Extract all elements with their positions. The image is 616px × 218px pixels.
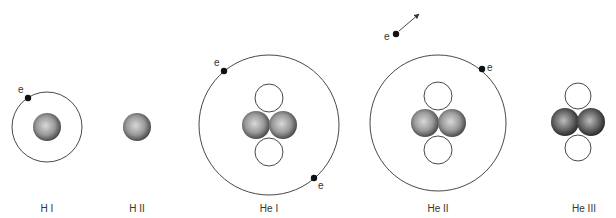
proton xyxy=(123,113,151,141)
electron-label: e xyxy=(318,180,324,191)
atom-h1: e H I xyxy=(12,84,82,214)
atom-label: He III xyxy=(572,203,596,214)
electron xyxy=(479,66,485,72)
proton xyxy=(33,113,61,141)
atom-h2: H II xyxy=(123,113,151,214)
diagram-canvas: e H I H II e e He I xyxy=(0,0,616,218)
atom-he1: e e He I xyxy=(199,55,339,214)
escape-arrow-icon xyxy=(399,14,419,31)
proton xyxy=(438,109,466,137)
free-electron xyxy=(393,31,399,37)
proton xyxy=(411,109,439,137)
electron xyxy=(221,68,227,74)
proton xyxy=(269,111,297,139)
neutron xyxy=(255,84,283,112)
atom-label: H II xyxy=(129,203,145,214)
atom-he2: e e He II xyxy=(370,14,506,214)
electron xyxy=(311,175,317,181)
electron-label: e xyxy=(384,31,390,42)
electron-label: e xyxy=(487,62,493,73)
neutron xyxy=(424,82,452,110)
electron xyxy=(25,95,31,101)
atom-label: H I xyxy=(41,203,54,214)
electron-label: e xyxy=(214,57,220,68)
neutron xyxy=(565,135,591,161)
proton xyxy=(242,111,270,139)
ionization-diagram: e H I H II e e He I xyxy=(0,0,616,218)
atom-label: He II xyxy=(427,203,448,214)
neutron xyxy=(424,136,452,164)
atom-label: He I xyxy=(260,203,278,214)
neutron xyxy=(255,138,283,166)
proton xyxy=(577,108,605,136)
electron-label: e xyxy=(18,84,24,95)
atom-he3: He III xyxy=(551,83,605,214)
neutron xyxy=(565,83,591,109)
proton xyxy=(551,108,579,136)
